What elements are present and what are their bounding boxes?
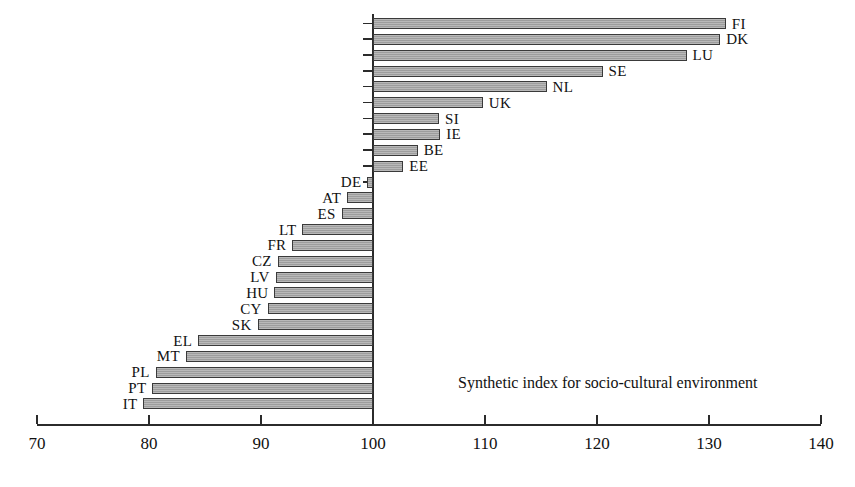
- bar-nl[interactable]: [373, 81, 547, 92]
- bar-label-es: ES: [0, 206, 336, 221]
- x-tick-label-130: 130: [696, 435, 722, 452]
- bar-row: LT: [0, 224, 855, 235]
- bar-label-cz: CZ: [0, 254, 272, 269]
- bar-si[interactable]: [373, 113, 439, 124]
- bar-label-pl: PL: [0, 365, 150, 380]
- bar-row: SK: [0, 319, 855, 330]
- bar-row: UK: [0, 97, 855, 108]
- row-tick: [363, 133, 372, 135]
- x-tick-140: [820, 415, 822, 424]
- bar-row: SI: [0, 113, 855, 124]
- x-tick-110: [484, 415, 486, 424]
- bar-row: IT: [0, 398, 855, 409]
- bar-row: DE: [0, 177, 855, 188]
- x-tick-120: [596, 415, 598, 424]
- bar-label-se: SE: [609, 64, 627, 79]
- bar-it[interactable]: [143, 398, 373, 409]
- bar-lu[interactable]: [373, 50, 687, 61]
- bar-row: AT: [0, 192, 855, 203]
- bar-mt[interactable]: [186, 351, 373, 362]
- bar-pt[interactable]: [152, 383, 373, 394]
- bar-row: LU: [0, 50, 855, 61]
- bar-sk[interactable]: [258, 319, 373, 330]
- x-tick-label-90: 90: [253, 435, 270, 452]
- row-tick: [363, 165, 372, 167]
- x-tick-label-110: 110: [473, 435, 498, 452]
- row-tick: [363, 149, 372, 151]
- bar-row: CZ: [0, 256, 855, 267]
- bar-label-be: BE: [424, 143, 444, 158]
- bar-label-ie: IE: [446, 127, 461, 142]
- bar-fi[interactable]: [373, 18, 726, 29]
- bar-label-pt: PT: [0, 381, 146, 396]
- bar-lv[interactable]: [276, 272, 373, 283]
- bar-label-cy: CY: [0, 301, 262, 316]
- bar-ee[interactable]: [373, 161, 403, 172]
- x-tick-label-80: 80: [141, 435, 158, 452]
- bar-label-lu: LU: [693, 48, 714, 63]
- bar-row: LV: [0, 272, 855, 283]
- x-tick-label-100: 100: [360, 435, 386, 452]
- bar-label-si: SI: [445, 111, 459, 126]
- bar-cz[interactable]: [278, 256, 373, 267]
- row-tick: [363, 70, 372, 72]
- bar-ie[interactable]: [373, 129, 440, 140]
- x-tick-80: [148, 415, 150, 424]
- bar-label-fi: FI: [732, 16, 746, 31]
- bar-label-dk: DK: [726, 32, 748, 47]
- bar-label-hu: HU: [0, 285, 268, 300]
- bar-dk[interactable]: [373, 34, 720, 45]
- bar-label-sk: SK: [0, 317, 252, 332]
- bar-label-de: DE: [0, 175, 361, 190]
- bar-row: DK: [0, 34, 855, 45]
- bar-row: EL: [0, 335, 855, 346]
- bar-row: EE: [0, 161, 855, 172]
- row-tick: [363, 102, 372, 104]
- plot-area: FIDKLUSENLUKSIIEBEEEDEATESLTFRCZLVHUCYSK…: [0, 0, 855, 487]
- bar-label-lt: LT: [0, 222, 296, 237]
- bar-row: ES: [0, 208, 855, 219]
- bar-row: FI: [0, 18, 855, 29]
- bar-cy[interactable]: [268, 303, 373, 314]
- bar-be[interactable]: [373, 145, 418, 156]
- x-tick-label-120: 120: [584, 435, 610, 452]
- bar-label-uk: UK: [489, 95, 511, 110]
- bar-label-ee: EE: [409, 159, 428, 174]
- bar-row: SE: [0, 66, 855, 77]
- row-tick: [363, 38, 372, 40]
- chart-root: FIDKLUSENLUKSIIEBEEEDEATESLTFRCZLVHUCYSK…: [0, 0, 855, 487]
- bar-row: NL: [0, 81, 855, 92]
- bar-row: HU: [0, 287, 855, 298]
- bar-pl[interactable]: [156, 367, 373, 378]
- bar-row: IE: [0, 129, 855, 140]
- bar-row: CY: [0, 303, 855, 314]
- row-tick: [363, 23, 372, 25]
- bar-label-nl: NL: [553, 79, 574, 94]
- x-tick-100: [372, 415, 374, 424]
- x-tick-label-140: 140: [808, 435, 834, 452]
- bar-el[interactable]: [198, 335, 373, 346]
- x-tick-90: [260, 415, 262, 424]
- bar-uk[interactable]: [373, 97, 483, 108]
- x-tick-130: [708, 415, 710, 424]
- bar-hu[interactable]: [274, 287, 373, 298]
- x-axis-line: [37, 424, 821, 426]
- bar-label-el: EL: [0, 333, 192, 348]
- bar-at[interactable]: [347, 192, 373, 203]
- bar-lt[interactable]: [302, 224, 373, 235]
- bar-de[interactable]: [367, 177, 373, 188]
- bar-row: MT: [0, 351, 855, 362]
- bar-row: BE: [0, 145, 855, 156]
- bar-label-lv: LV: [0, 270, 270, 285]
- bar-label-it: IT: [0, 396, 137, 411]
- bar-label-at: AT: [0, 190, 341, 205]
- bar-es[interactable]: [342, 208, 373, 219]
- row-tick: [363, 54, 372, 56]
- row-tick: [363, 118, 372, 120]
- bar-row: FR: [0, 240, 855, 251]
- bar-fr[interactable]: [292, 240, 373, 251]
- bar-label-mt: MT: [0, 349, 180, 364]
- bar-se[interactable]: [373, 66, 603, 77]
- x-tick-70: [36, 415, 38, 424]
- chart-annotation: Synthetic index for socio-cultural envir…: [458, 375, 757, 391]
